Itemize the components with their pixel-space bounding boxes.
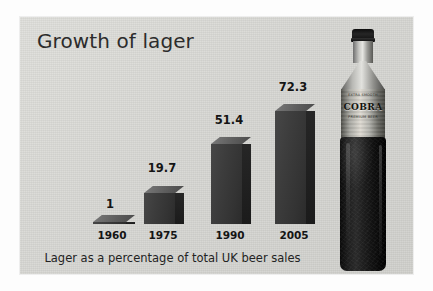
bar-1975[interactable] [144, 193, 175, 224]
plot-area: 1 1960 19.7 1975 51.4 [20, 17, 325, 274]
chart-caption: Lager as a percentage of total UK beer s… [20, 251, 325, 265]
bar-top-face-1960 [93, 215, 135, 222]
bar-top-face-1975 [144, 186, 184, 193]
bottle-highlight [346, 143, 350, 255]
bottle-photo: EXTRA SMOOTH COBRA PREMIUM BEER [317, 17, 413, 274]
bar-side-face-1975 [175, 193, 184, 224]
bar-front-face-1960 [93, 222, 126, 224]
bar-side-face-1990 [242, 144, 251, 224]
bar-side-face-1960 [126, 222, 135, 224]
bottle-brand-name: COBRA [341, 102, 385, 112]
bar-category-label-2005: 2005 [269, 229, 319, 241]
bar-value-label-1990: 51.4 [205, 113, 253, 127]
bar-top-face-2005 [275, 104, 315, 111]
bar-2005[interactable] [275, 111, 306, 224]
bar-1990[interactable] [211, 144, 242, 224]
bottle-tagline-top: EXTRA SMOOTH [341, 93, 385, 97]
cobra-bottle: EXTRA SMOOTH COBRA PREMIUM BEER [335, 29, 391, 274]
bar-front-face-1975 [144, 193, 175, 224]
chart-panel: Growth of lager 1 1960 19.7 [20, 17, 413, 274]
bar-1960[interactable] [93, 222, 126, 224]
bar-category-label-1960: 1960 [88, 229, 136, 241]
bottle-rim-light [379, 145, 382, 255]
bottle-neck [353, 41, 373, 63]
bar-side-face-2005 [306, 111, 315, 224]
bottle-tagline-bottom: PREMIUM BEER [341, 115, 385, 120]
bar-top-face-1990 [211, 137, 251, 144]
bar-category-label-1975: 1975 [138, 229, 188, 241]
bar-value-label-1960: 1 [88, 197, 132, 211]
bar-front-face-1990 [211, 144, 242, 224]
bar-value-label-1975: 19.7 [138, 161, 186, 175]
bar-front-face-2005 [275, 111, 306, 224]
bar-category-label-1990: 1990 [205, 229, 255, 241]
bar-value-label-2005: 72.3 [269, 80, 317, 94]
screenshot-root: Growth of lager 1 1960 19.7 [0, 0, 433, 291]
